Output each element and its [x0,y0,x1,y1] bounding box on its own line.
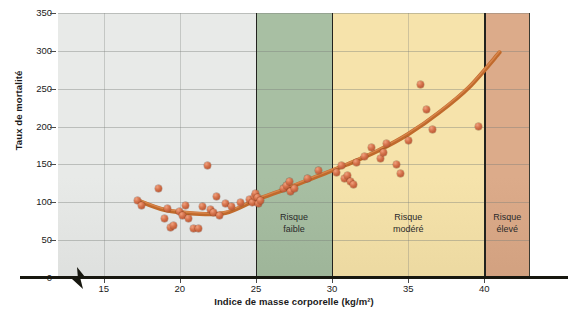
plot-area: RisquefaibleRisquemodéréRisqueélevé [58,13,530,278]
x-axis-tick-mark [104,279,105,283]
y-axis-tick-mark [50,127,56,128]
risk-zone-label-line2: élevé [484,223,530,235]
y-axis-tick-mark [50,13,56,14]
y-axis-tick-mark [50,51,56,52]
x-axis-tick-mark [180,279,181,283]
data-point [405,137,412,144]
y-axis-tick-label: 300 [18,45,52,56]
x-axis-tick-mark [256,279,257,283]
y-axis-tick-mark [50,240,56,241]
data-point [315,167,322,174]
data-point [257,197,264,204]
y-axis-tick-mark [50,202,56,203]
x-axis-tick-label: 30 [317,283,347,294]
data-point [333,169,340,176]
x-axis-tick-label: 40 [469,283,499,294]
risk-zone-label-line2: faible [256,223,332,235]
plot-right-border [529,13,530,278]
y-axis-tick: 350 [0,13,52,14]
x-axis-title-text: Indice de masse corporelle (kg/m²) [214,296,374,307]
x-axis-tick-mark [408,279,409,283]
y-axis-tick: 250 [0,89,52,90]
x-axis-tick-label: 15 [89,283,119,294]
data-point [393,161,400,168]
y-axis-tick-mark [50,164,56,165]
data-point [361,153,368,160]
chart-figure: Taux de mortalité 050100150200250300350 … [0,0,568,317]
risk-zone-label: Risquemodéré [332,211,484,235]
y-axis-tick-label: 100 [18,196,52,207]
x-axis-tick-mark [332,279,333,283]
risk-zone-label-line1: Risque [332,211,484,223]
y-axis-tick: 300 [0,51,52,52]
axis-break-icon [68,266,90,290]
data-point [195,225,202,232]
data-point [475,123,482,130]
y-axis-title: Taux de mortalité [13,51,24,171]
risk-zone-label: Risqueélevé [484,211,530,235]
x-axis-line [20,276,568,279]
data-point [213,193,220,200]
data-point [199,203,206,210]
y-axis-tick: 150 [0,164,52,165]
data-point [304,175,311,182]
data-point [237,199,244,206]
x-axis-tick-label: 20 [165,283,195,294]
y-axis-tick: 50 [0,240,52,241]
risk-zone-label: Risquefaible [256,211,332,235]
data-point [291,185,298,192]
y-axis-tick-label: 200 [18,121,52,132]
y-axis-tick: 100 [0,202,52,203]
y-axis-tick-mark [50,89,56,90]
data-point [228,203,235,210]
data-point [350,181,357,188]
data-point [138,202,145,209]
data-point [286,178,293,185]
trend-curve [58,13,530,278]
y-axis-tick-label: 350 [18,7,52,18]
y-axis-tick-label: 250 [18,83,52,94]
risk-zone-label-line1: Risque [484,211,530,223]
x-axis-tick-label: 25 [241,283,271,294]
x-axis-tick-label: 35 [393,283,423,294]
risk-zone-label-line2: modéré [332,223,484,235]
x-axis-tick-mark [484,279,485,283]
data-point [170,222,177,229]
y-axis-tick-label: 50 [18,234,52,245]
y-axis-tick-label: 150 [18,158,52,169]
data-point [164,205,171,212]
y-axis-tick: 200 [0,127,52,128]
data-point [417,81,424,88]
x-axis-title: Indice de masse corporelle (kg/m²) [58,296,530,307]
risk-zone-label-line1: Risque [256,211,332,223]
